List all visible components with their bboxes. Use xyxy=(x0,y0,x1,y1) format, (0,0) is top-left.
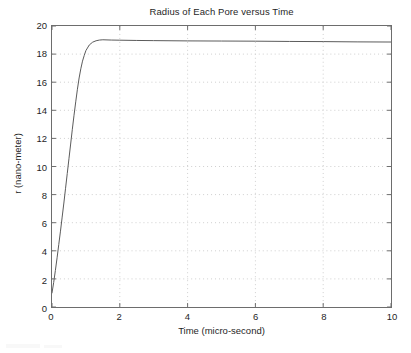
x-axis-tick-labels: 0246810 xyxy=(51,311,392,325)
y-tick-label: 2 xyxy=(42,274,47,285)
y-tick-label: 8 xyxy=(42,189,47,200)
axis-ticks xyxy=(52,26,391,307)
y-tick-label: 14 xyxy=(36,104,47,115)
y-axis-tick-labels: 02468101214161820 xyxy=(22,25,47,308)
y-tick-label: 10 xyxy=(36,161,47,172)
x-tick-label: 8 xyxy=(321,311,326,322)
y-axis-label: r (nano-meter) xyxy=(12,104,23,224)
scan-artifact xyxy=(44,345,62,348)
y-tick-label: 20 xyxy=(36,20,47,31)
x-tick-label: 4 xyxy=(185,311,190,322)
y-tick-label: 6 xyxy=(42,218,47,229)
plot-area xyxy=(51,25,392,308)
chart-title: Radius of Each Pore versus Time xyxy=(51,6,392,17)
x-axis-label: Time (micro-second) xyxy=(51,325,392,336)
y-tick-label: 18 xyxy=(36,48,47,59)
y-tick-label: 12 xyxy=(36,133,47,144)
x-tick-label: 10 xyxy=(387,311,398,322)
x-tick-label: 0 xyxy=(48,311,53,322)
figure-canvas: Radius of Each Pore versus Time 02468101… xyxy=(0,0,411,353)
x-tick-label: 2 xyxy=(117,311,122,322)
y-tick-label: 16 xyxy=(36,76,47,87)
x-tick-label: 6 xyxy=(253,311,258,322)
scan-artifact xyxy=(6,344,40,348)
y-tick-label: 0 xyxy=(42,303,47,314)
y-tick-label: 4 xyxy=(42,246,47,257)
